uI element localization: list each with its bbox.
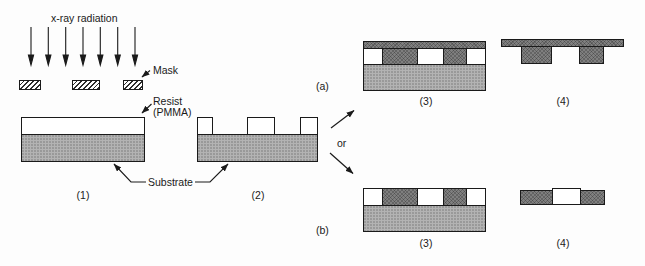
- step3b-substrate: [363, 205, 486, 232]
- step3b-resist-block-1: [363, 188, 383, 206]
- step4b-resist-block: [552, 188, 581, 205]
- step-4a-label: (4): [557, 95, 570, 107]
- step-3b-label: (3): [420, 237, 433, 249]
- step3a-substrate: [363, 64, 486, 91]
- step3b-resist-block-2: [417, 188, 444, 206]
- step1-resist-layer: [21, 117, 145, 135]
- mask-block-1: [19, 80, 41, 90]
- mask-block-3: [123, 80, 143, 90]
- xray-radiation-label: x-ray radiation: [51, 12, 118, 24]
- step2-resist-block-3: [300, 117, 318, 135]
- xray-lithography-diagram: x-ray radiation Mask Resist (PMMA) Subst…: [0, 0, 645, 266]
- mask-leader-arrow-icon: [142, 71, 150, 78]
- step1-substrate: [21, 134, 145, 162]
- pmma-label: (PMMA): [153, 106, 192, 118]
- branch-a-label: (a): [316, 80, 329, 92]
- step-1-label: (1): [77, 189, 90, 201]
- or-label: or: [337, 137, 346, 149]
- step4b-metal-block-1: [520, 190, 553, 205]
- substrate-label: Substrate: [148, 176, 193, 188]
- resist-leader-arrow-icon: [142, 104, 152, 113]
- step3a-metal-block-2: [443, 48, 467, 65]
- branch-arrow-down-icon: [330, 153, 353, 174]
- step4a-top-plate: [501, 39, 624, 47]
- step2-substrate: [197, 134, 318, 162]
- step-2-label: (2): [252, 189, 265, 201]
- step3a-resist-block-3: [466, 48, 486, 65]
- step4a-metal-tooth-2: [579, 46, 604, 64]
- step3a-metal-block-1: [382, 48, 418, 65]
- branch-b-label: (b): [316, 224, 329, 236]
- branch-arrow-up-icon: [331, 111, 354, 129]
- step4b-metal-block-2: [580, 190, 605, 205]
- xray-arrows-icon: [28, 27, 137, 65]
- step3b-metal-block-2: [443, 188, 467, 206]
- step4a-metal-tooth-1: [521, 46, 552, 64]
- step2-resist-block-2: [247, 117, 275, 135]
- mask-block-2: [72, 80, 100, 90]
- step-3a-label: (3): [420, 95, 433, 107]
- step2-resist-block-1: [197, 117, 213, 135]
- mask-label: Mask: [153, 64, 178, 76]
- step3a-resist-block-1: [363, 48, 383, 65]
- step-4b-label: (4): [557, 237, 570, 249]
- step3b-metal-block-1: [382, 188, 418, 206]
- step3a-resist-block-2: [417, 48, 444, 65]
- step3b-resist-block-3: [466, 188, 486, 206]
